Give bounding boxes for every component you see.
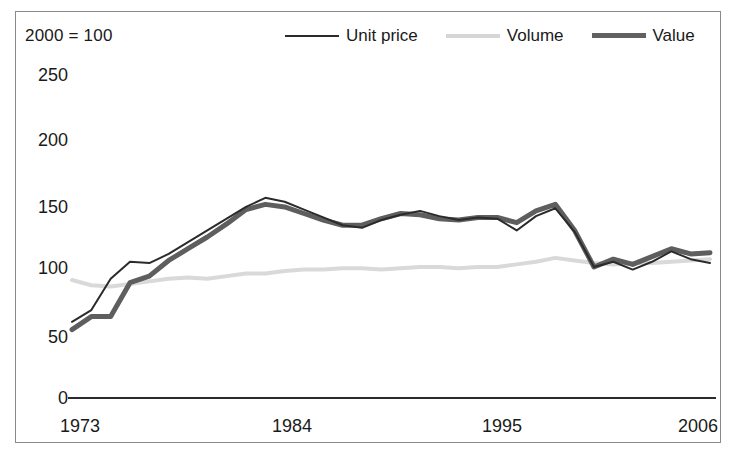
plot-lines (0, 0, 748, 454)
chart-figure: 2000 = 100 Unit price Volume Value 250 2… (0, 0, 748, 454)
